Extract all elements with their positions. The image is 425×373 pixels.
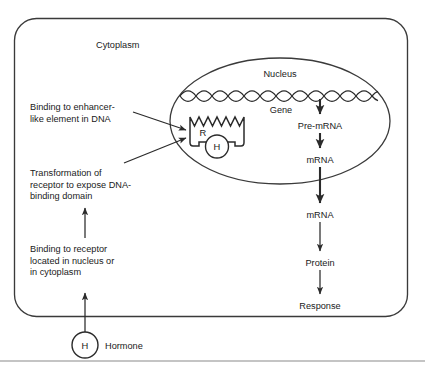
- pathway-step-protein: Protein: [305, 258, 334, 268]
- pathway-step-response: Response: [299, 301, 340, 311]
- cytoplasm-label: Cytoplasm: [96, 40, 140, 50]
- annotation-receptor-binding-line-1: Binding to receptor: [30, 244, 107, 254]
- gene-label: Gene: [270, 105, 292, 115]
- annotation-enhancer-binding: Binding to enhancer- like element in DNA: [30, 102, 117, 124]
- nucleus-label: Nucleus: [263, 69, 297, 79]
- hormone-bound-letter: H: [214, 141, 221, 152]
- annotation-receptor-binding: Binding to receptor located in nucleus o…: [30, 244, 117, 277]
- annotation-enhancer-binding-line-2: like element in DNA: [30, 114, 112, 124]
- annotation-enhancer-binding-line-1: Binding to enhancer-: [30, 102, 115, 112]
- pathway-step-mrna-nuclear: mRNA: [306, 155, 334, 165]
- receptor-letter: R: [200, 127, 207, 138]
- pathway-step-mrna-cytoplasmic: mRNA: [306, 210, 334, 220]
- annotation-receptor-binding-line-3: in cytoplasm: [30, 267, 81, 277]
- pathway-step-pre-mrna: Pre-mRNA: [298, 121, 343, 131]
- arrow-receptor-transformation: [124, 138, 186, 163]
- annotation-receptor-transformation-line-3: binding domain: [30, 191, 92, 201]
- diagram-figure: R H H Cytoplasm Nucleus Gene Pre-mRNA mR…: [0, 0, 425, 373]
- hormone-free-letter: H: [82, 340, 89, 351]
- annotation-receptor-binding-line-2: located in nucleus or: [30, 256, 114, 266]
- hormone-label: Hormone: [105, 341, 143, 351]
- annotation-receptor-transformation-line-2: receptor to expose DNA-: [30, 180, 131, 190]
- steroid-hormone-diagram: R H H Cytoplasm Nucleus Gene Pre-mRNA mR…: [0, 0, 425, 373]
- annotation-receptor-transformation-line-1: Transformation of: [30, 168, 102, 178]
- annotation-receptor-transformation: Transformation of receptor to expose DNA…: [30, 168, 134, 201]
